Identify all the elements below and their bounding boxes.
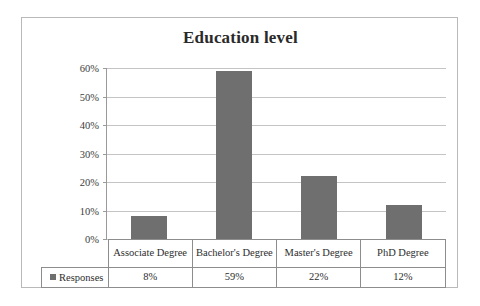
- gridline: [107, 68, 446, 69]
- table-row-responses: Responses 8%59%22%12%: [42, 268, 446, 288]
- bar: [216, 71, 252, 239]
- table-cell-category: Master's Degree: [277, 240, 361, 268]
- table-cell-category: Bachelor's Degree: [192, 240, 276, 268]
- data-table: Associate DegreeBachelor's DegreeMaster'…: [41, 239, 446, 288]
- y-axis-tick: [103, 125, 107, 126]
- y-axis-tick-label: 50%: [80, 91, 99, 102]
- y-axis-tick-label: 40%: [80, 120, 99, 131]
- gridline: [107, 97, 446, 98]
- y-axis-tick: [103, 211, 107, 212]
- legend-swatch-icon: [50, 274, 56, 280]
- table-corner-cell: [42, 240, 109, 268]
- y-axis-tick: [103, 68, 107, 69]
- table-cell-value: 8%: [108, 268, 192, 288]
- chart-title: Education level: [22, 28, 459, 48]
- table-cell-value: 22%: [277, 268, 361, 288]
- table-row-categories: Associate DegreeBachelor's DegreeMaster'…: [42, 240, 446, 268]
- chart-frame: Education level 0%10%20%30%40%50%60% Ass…: [21, 17, 458, 288]
- y-axis-tick-label: 10%: [80, 205, 99, 216]
- y-axis-tick: [103, 97, 107, 98]
- gridline: [107, 154, 446, 155]
- gridline: [107, 125, 446, 126]
- table-cell-value: 12%: [361, 268, 445, 288]
- legend-entry-responses: Responses: [42, 268, 109, 288]
- y-axis-tick: [103, 154, 107, 155]
- y-axis-tick-label: 30%: [80, 148, 99, 159]
- gridline: [107, 182, 446, 183]
- table-cell-category: Associate Degree: [108, 240, 192, 268]
- bar: [131, 216, 167, 239]
- y-axis-tick-label: 60%: [80, 63, 99, 74]
- y-axis-tick: [103, 182, 107, 183]
- table-cell-category: PhD Degree: [361, 240, 445, 268]
- table-cell-value: 59%: [192, 268, 276, 288]
- legend-label: Responses: [59, 272, 103, 283]
- bar: [386, 205, 422, 239]
- y-axis-tick-label: 20%: [80, 177, 99, 188]
- bar: [301, 176, 337, 239]
- plot-area: 0%10%20%30%40%50%60%: [107, 68, 446, 239]
